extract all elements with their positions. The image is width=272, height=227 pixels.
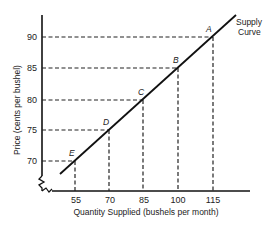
y-tick-75: 75 bbox=[27, 125, 37, 135]
x-axis-title: Quantity Supplied (bushels per month) bbox=[73, 207, 218, 217]
supply-curve-chart: 90 85 80 75 70 55 70 85 100 115 A B C D … bbox=[0, 0, 272, 227]
x-tick-115: 115 bbox=[206, 195, 220, 205]
point-label-a: A bbox=[205, 24, 212, 34]
y-tick-85: 85 bbox=[27, 63, 37, 73]
axis-break-icon bbox=[39, 176, 44, 191]
axis-break-tail bbox=[42, 188, 52, 192]
y-axis-title: Price (cents per bushel) bbox=[12, 65, 22, 155]
y-tick-70: 70 bbox=[27, 156, 37, 166]
y-tick-80: 80 bbox=[27, 95, 37, 105]
y-tick-90: 90 bbox=[27, 32, 37, 42]
x-tick-70: 70 bbox=[105, 195, 115, 205]
point-label-e: E bbox=[69, 148, 75, 158]
horizontal-guides bbox=[42, 37, 213, 161]
supply-curve-line bbox=[60, 15, 236, 174]
x-tick-55: 55 bbox=[71, 195, 81, 205]
curve-label-line2: Curve bbox=[238, 27, 261, 37]
x-tick-100: 100 bbox=[170, 195, 185, 205]
x-tick-85: 85 bbox=[139, 195, 149, 205]
vertical-guides bbox=[75, 37, 213, 191]
curve-label-line1: Supply bbox=[236, 17, 263, 27]
point-label-c: C bbox=[138, 87, 145, 97]
point-label-b: B bbox=[173, 55, 179, 65]
point-label-d: D bbox=[103, 117, 109, 127]
